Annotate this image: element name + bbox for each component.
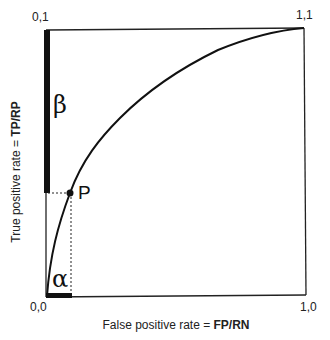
x-axis-label-text: False positive rate = bbox=[102, 318, 213, 332]
roc-diagram bbox=[0, 0, 330, 340]
beta-bar bbox=[44, 30, 50, 193]
y-axis-label: True positive rate = TP/RP bbox=[9, 101, 23, 242]
corner-label-top-left: 0,1 bbox=[32, 10, 49, 24]
point-p-marker bbox=[67, 190, 74, 197]
alpha-label: α bbox=[52, 265, 68, 293]
corner-label-top-right: 1,1 bbox=[296, 8, 313, 22]
beta-label: β bbox=[53, 91, 67, 119]
corner-label-bottom-right: 1,0 bbox=[300, 300, 317, 314]
y-axis-label-text: True positive rate = bbox=[9, 137, 23, 243]
roc-curve bbox=[47, 28, 304, 296]
y-axis-label-formula: TP/RP bbox=[9, 101, 23, 136]
point-p-label: P bbox=[78, 182, 91, 204]
corner-label-bottom-left: 0,0 bbox=[30, 300, 47, 314]
x-axis-label-formula: FP/RN bbox=[214, 318, 250, 332]
x-axis-label: False positive rate = FP/RN bbox=[102, 318, 249, 332]
alpha-bar bbox=[46, 293, 72, 298]
